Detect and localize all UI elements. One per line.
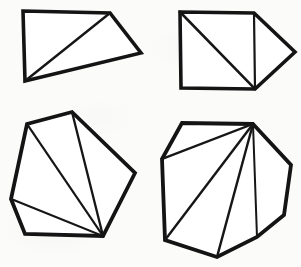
- shape-4-outline: [162, 123, 291, 257]
- shape-heptagon-fan-from-top-right: [162, 123, 291, 257]
- shape-square-with-attached-triangle: [180, 12, 295, 89]
- shape-quadrilateral-with-one-diagonal: [23, 11, 141, 81]
- shape-2-diagonal-2: [254, 13, 255, 89]
- polygon-figure-canvas: [0, 0, 301, 267]
- figure-sheet: [0, 0, 301, 267]
- shape-2-outline: [180, 12, 295, 89]
- shape-1-outline: [23, 11, 141, 81]
- shape-3-outline: [11, 112, 135, 236]
- shape-hexagon-fan-from-bottom-right: [11, 112, 135, 236]
